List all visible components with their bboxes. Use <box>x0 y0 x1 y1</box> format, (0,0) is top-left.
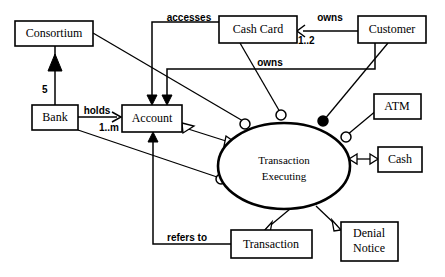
diagram-canvas: Consortium Bank Account Cash Card Custom… <box>0 0 445 277</box>
node-cash-card[interactable]: Cash Card <box>219 16 297 43</box>
node-bank[interactable]: Bank <box>32 105 78 130</box>
label-owns-cashcard: owns <box>317 12 343 23</box>
port-cashcard <box>276 110 286 120</box>
node-cash-label: Cash <box>388 152 412 166</box>
node-transaction[interactable]: Transaction <box>231 230 312 258</box>
label-refers-to: refers to <box>167 232 207 243</box>
object-model-diagram: Consortium Bank Account Cash Card Custom… <box>0 0 445 277</box>
node-transaction-executing-label-line1: Transaction <box>258 154 310 166</box>
port-atm <box>341 132 351 142</box>
node-consortium-label: Consortium <box>26 26 83 40</box>
multiplicity-account: 1..m <box>99 122 119 133</box>
node-atm[interactable]: ATM <box>374 94 421 119</box>
node-transaction-executing[interactable]: Transaction Executing <box>218 123 350 209</box>
node-cash[interactable]: Cash <box>378 147 422 172</box>
node-account-label: Account <box>132 111 173 125</box>
port-customer-filled <box>318 116 328 126</box>
node-denial-notice-label-line2: Notice <box>353 241 385 255</box>
edge-owns-customer-account <box>162 43 375 105</box>
label-holds: holds <box>84 105 111 116</box>
node-atm-label: ATM <box>384 99 410 113</box>
node-bank-label: Bank <box>42 110 67 124</box>
edge-cashcard-process <box>240 43 280 112</box>
node-customer-label: Customer <box>369 22 416 36</box>
node-customer[interactable]: Customer <box>358 16 426 43</box>
label-owns-account: owns <box>257 57 283 68</box>
edge-refers-to <box>148 132 231 244</box>
multiplicity-cash-card: 1..2 <box>298 35 315 46</box>
multiplicity-consortium-bank: 5 <box>42 84 48 95</box>
node-account[interactable]: Account <box>122 105 182 132</box>
edge-accesses <box>147 22 219 105</box>
node-transaction-label: Transaction <box>243 237 299 251</box>
node-denial-notice[interactable]: Denial Notice <box>341 222 398 261</box>
edge-process-cash-dataflow <box>349 154 378 164</box>
label-accesses: accesses <box>167 12 212 23</box>
edge-bank-process <box>78 130 220 178</box>
node-transaction-executing-label-line2: Executing <box>262 170 307 182</box>
node-denial-notice-label-line1: Denial <box>353 226 386 240</box>
edge-atm-process <box>347 110 377 135</box>
node-cash-card-label: Cash Card <box>233 22 283 36</box>
edge-consortium-bank <box>48 46 62 105</box>
node-consortium[interactable]: Consortium <box>15 21 93 46</box>
port-consortium <box>240 119 250 129</box>
edge-process-denialnotice-dataflow <box>316 206 341 231</box>
